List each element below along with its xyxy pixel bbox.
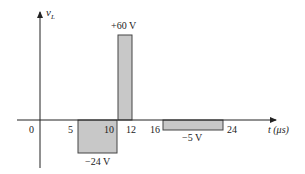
x-axis-label: t (μs) [268,125,289,135]
tick-16: 16 [150,125,160,135]
waveform-plot [0,0,305,174]
tick-0: 0 [29,125,34,135]
pulse-pos60 [118,35,132,120]
y-axis-label: vL [46,7,55,21]
tick-10: 10 [104,125,114,135]
y-label-sub: L [51,13,55,21]
pulse-neg5 [163,120,223,130]
label-neg24: −24 V [85,157,110,167]
tick-24: 24 [227,125,237,135]
label-neg5: −5 V [182,133,202,143]
tick-5: 5 [68,125,73,135]
label-pos60: +60 V [111,21,136,31]
tick-12: 12 [126,125,136,135]
